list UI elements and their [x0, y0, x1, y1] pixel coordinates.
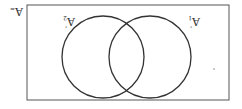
svg-text:': ': [65, 21, 67, 29]
set-label-left: A 2 ': [63, 15, 76, 29]
set-label-right: A 1 ': [188, 15, 201, 29]
svg-text:1: 1: [188, 15, 192, 22]
venn-diagram: A = A 2 ' A 1 ': [0, 0, 242, 109]
stray-dot: [213, 68, 215, 70]
svg-text:': ': [190, 21, 192, 29]
set-circle-right: [109, 16, 191, 98]
universe-label: A =: [10, 5, 24, 18]
svg-text:=: =: [10, 6, 15, 13]
svg-text:2: 2: [63, 15, 67, 22]
